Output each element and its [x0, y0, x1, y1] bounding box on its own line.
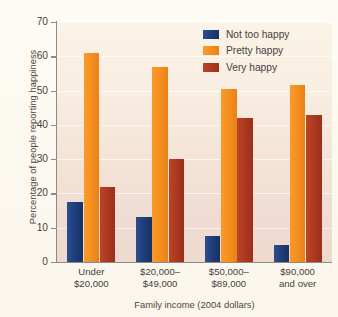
x-category-line: $90,000 [263, 266, 332, 278]
x-category-line: $50,000– [195, 266, 264, 278]
x-axis-title: Family income (2004 dollars) [57, 299, 332, 310]
y-tick-label: 30 [8, 153, 48, 164]
bar-very-happy [100, 187, 116, 262]
y-tick-label: 40 [8, 118, 48, 129]
x-category-line: Under [57, 266, 126, 278]
x-category-label: $50,000–$89,000 [195, 266, 264, 289]
bar-pretty-happy [290, 85, 306, 262]
legend-label: Very happy [226, 62, 277, 73]
y-tick-label: 70 [8, 16, 48, 27]
x-category-label: $90,000and over [263, 266, 332, 289]
x-axis-line [56, 262, 332, 263]
bar-very-happy [306, 115, 322, 262]
legend-item-not-too-happy: Not too happy [203, 26, 289, 43]
y-tick-label: 0 [8, 256, 48, 267]
legend-label: Not too happy [226, 29, 289, 40]
chart-legend: Not too happyPretty happyVery happy [203, 26, 289, 76]
x-category-line: $20,000– [126, 266, 195, 278]
legend-swatch-not-too-happy [203, 30, 219, 39]
legend-swatch-very-happy [203, 63, 219, 72]
x-category-label: Under$20,000 [57, 266, 126, 289]
bar-very-happy [237, 118, 253, 262]
bar-not-too-happy [136, 217, 152, 262]
bar-not-too-happy [67, 202, 83, 262]
x-category-line: $20,000 [57, 278, 126, 290]
x-category-line: $49,000 [126, 278, 195, 290]
bar-very-happy [169, 159, 185, 262]
legend-item-pretty-happy: Pretty happy [203, 43, 289, 60]
legend-item-very-happy: Very happy [203, 59, 289, 76]
bar-pretty-happy [152, 67, 168, 262]
bar-not-too-happy [205, 236, 221, 262]
y-tick-label: 20 [8, 187, 48, 198]
gridline [57, 22, 332, 23]
bar-pretty-happy [84, 53, 100, 262]
x-category-label: $20,000–$49,000 [126, 266, 195, 289]
legend-label: Pretty happy [226, 45, 283, 56]
bar-not-too-happy [274, 245, 290, 262]
bar-pretty-happy [221, 89, 237, 262]
x-category-line: $89,000 [195, 278, 264, 290]
plot-area [57, 22, 332, 262]
happiness-income-bar-chart: Percentage of people reporting happiness… [0, 0, 338, 317]
y-tick-label: 60 [8, 50, 48, 61]
y-tick-label: 50 [8, 84, 48, 95]
x-category-line: and over [263, 278, 332, 290]
y-tick-label: 10 [8, 221, 48, 232]
legend-swatch-pretty-happy [203, 46, 219, 55]
